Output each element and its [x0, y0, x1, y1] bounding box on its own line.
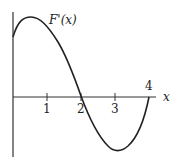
tick-label-1: 1: [43, 102, 51, 116]
tick-label-3: 3: [111, 102, 119, 116]
graph-figure: F'(x) 1 2 3 4 x: [0, 0, 179, 163]
x-axis-label: x: [163, 90, 170, 104]
curve-f-prime: [13, 17, 149, 151]
tick-label-4: 4: [145, 79, 153, 93]
curve-label: F'(x): [48, 13, 77, 27]
tick-label-2: 2: [77, 102, 85, 116]
